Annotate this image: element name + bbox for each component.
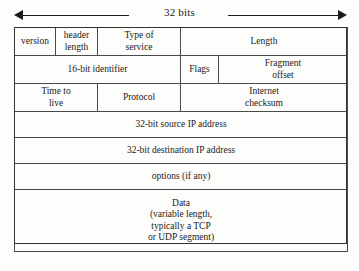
field-header-length: header length — [56, 28, 98, 56]
table-row: 16-bit identifier Flags Fragment offset — [15, 56, 348, 84]
field-source-ip-address: 32-bit source IP address — [15, 112, 348, 138]
field-protocol-label: Protocol — [123, 92, 155, 102]
width-label: 32 bits — [0, 6, 359, 19]
field-flags: Flags — [181, 56, 219, 84]
field-options-label: options (if any) — [152, 171, 211, 181]
field-version: version — [15, 28, 56, 56]
field-type-of-service-label: Type of service — [124, 30, 153, 52]
field-identifier: 16-bit identifier — [15, 56, 181, 84]
field-flags-label: Flags — [189, 64, 210, 74]
field-destination-ip-address-label: 32-bit destination IP address — [127, 145, 235, 155]
field-data: Data (variable length, typically a TCP o… — [15, 190, 348, 252]
ipv4-header-diagram: 32 bits version header length Type of se… — [0, 0, 359, 271]
field-time-to-live: Time to live — [15, 84, 98, 112]
field-type-of-service: Type of service — [98, 28, 181, 56]
field-data-label: Data (variable length, typically a TCP o… — [148, 198, 214, 243]
table-row: 32-bit source IP address — [15, 112, 348, 138]
table-row: version header length Type of service Le… — [15, 28, 348, 56]
width-annotation: 32 bits — [0, 0, 359, 27]
table-row: 32-bit destination IP address — [15, 138, 348, 164]
field-internet-checksum: Internet checksum — [181, 84, 348, 112]
field-fragment-offset-label: Fragment offset — [265, 58, 301, 80]
field-length: Length — [181, 28, 348, 56]
table-row: options (if any) — [15, 164, 348, 190]
field-internet-checksum-label: Internet checksum — [245, 86, 283, 108]
field-length-label: Length — [251, 36, 278, 46]
field-destination-ip-address: 32-bit destination IP address — [15, 138, 348, 164]
field-source-ip-address-label: 32-bit source IP address — [135, 119, 226, 129]
field-time-to-live-label: Time to live — [41, 86, 70, 108]
field-fragment-offset: Fragment offset — [219, 56, 348, 84]
header-field-table: version header length Type of service Le… — [14, 27, 348, 252]
field-identifier-label: 16-bit identifier — [68, 64, 128, 74]
field-protocol: Protocol — [98, 84, 181, 112]
field-header-length-label: header length — [64, 30, 89, 52]
field-version-label: version — [21, 36, 49, 46]
table-row: Time to live Protocol Internet checksum — [15, 84, 348, 112]
field-options: options (if any) — [15, 164, 348, 190]
table-row: Data (variable length, typically a TCP o… — [15, 190, 348, 252]
